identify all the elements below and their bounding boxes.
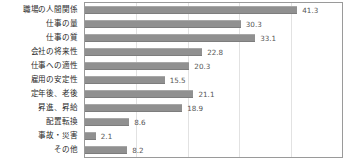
category-label: その他: [0, 145, 78, 154]
bar: [85, 118, 129, 126]
category-label: 職場の人間関係: [0, 5, 78, 14]
gridline-40: [291, 3, 292, 157]
bar: [85, 132, 96, 140]
bar-value-label: 22.8: [207, 49, 223, 57]
bar: [85, 146, 127, 154]
bar: [85, 90, 193, 98]
plot-area: 41.330.333.122.820.315.521.118.98.62.18.…: [84, 2, 343, 158]
bar: [85, 48, 202, 56]
horizontal-bar-chart: 職場の人間関係仕事の量仕事の質会社の将来性仕事への適性雇用の安定性定年後、老後昇…: [0, 0, 352, 164]
category-label: 事故・災害: [0, 131, 78, 140]
category-label: 定年後、老後: [0, 89, 78, 98]
bar: [85, 6, 297, 14]
bar-value-label: 30.3: [246, 21, 262, 29]
category-label: 仕事の量: [0, 19, 78, 28]
category-axis-labels: 職場の人間関係仕事の量仕事の質会社の将来性仕事への適性雇用の安定性定年後、老後昇…: [0, 0, 80, 164]
bar-value-label: 33.1: [260, 35, 276, 43]
bar-value-label: 2.1: [101, 133, 112, 141]
bar-value-label: 41.3: [302, 7, 318, 15]
bar-value-label: 8.2: [132, 147, 143, 155]
bar-value-label: 20.3: [194, 63, 210, 71]
category-label: 配置転換: [0, 117, 78, 126]
bar: [85, 76, 165, 84]
bar-value-label: 15.5: [170, 77, 186, 85]
category-label: 雇用の安定性: [0, 75, 78, 84]
bar: [85, 20, 241, 28]
category-label: 会社の将来性: [0, 47, 78, 56]
bar-value-label: 8.6: [134, 119, 145, 127]
category-label: 仕事の質: [0, 33, 78, 42]
category-label: 仕事への適性: [0, 61, 78, 70]
bar: [85, 34, 255, 42]
bar: [85, 62, 189, 70]
bar-value-label: 18.9: [187, 105, 203, 113]
bar: [85, 104, 182, 112]
category-label: 昇進、昇給: [0, 103, 78, 112]
bar-value-label: 21.1: [198, 91, 214, 99]
